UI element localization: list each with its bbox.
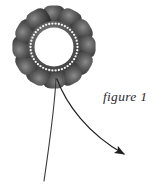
flower-bead xyxy=(30,40,32,42)
flower-bead xyxy=(64,25,66,27)
flower-bead xyxy=(42,25,44,27)
figure-illustration: figure 1 xyxy=(0,0,162,185)
flower-bead xyxy=(51,69,53,71)
flower-bead xyxy=(35,61,37,63)
flower-bead xyxy=(48,23,50,25)
flower-bead xyxy=(69,63,71,65)
flower-bead xyxy=(30,43,32,45)
flower-bead xyxy=(71,31,73,33)
flower-bead xyxy=(30,49,32,51)
flower-bead xyxy=(54,69,56,71)
flower-stem xyxy=(44,78,56,181)
flower-bead xyxy=(39,27,41,29)
flower-bead xyxy=(33,34,35,36)
flower-bead xyxy=(39,65,41,67)
flower-bead xyxy=(35,31,37,33)
flower-bead xyxy=(37,63,39,65)
flower-bead xyxy=(45,24,47,26)
flower-bead xyxy=(74,55,76,57)
flower-bead xyxy=(33,58,35,60)
flower-bead xyxy=(75,52,77,54)
flower-ring xyxy=(28,21,80,73)
flower-bead xyxy=(66,27,68,29)
flower-bead xyxy=(61,68,63,70)
flower-bead xyxy=(58,69,60,71)
flower-bead xyxy=(51,22,53,24)
flower-bead xyxy=(76,49,78,51)
flower-bead xyxy=(75,40,77,42)
flower-bead xyxy=(73,58,75,60)
flower-bead xyxy=(48,69,50,71)
flower-bead xyxy=(64,67,66,69)
flower-bead xyxy=(58,23,60,25)
flower-bead xyxy=(37,29,39,31)
flower-bead xyxy=(66,65,68,67)
flower-bead xyxy=(54,22,56,24)
flower-bead xyxy=(69,29,71,31)
flower-bead xyxy=(31,36,33,38)
flower-bead xyxy=(30,52,32,54)
flower-bead xyxy=(74,36,76,38)
flower-bead xyxy=(71,61,73,63)
flower-bead xyxy=(29,46,31,48)
flower-bead xyxy=(73,34,75,36)
flower-bead xyxy=(45,68,47,70)
flower-bead xyxy=(31,55,33,57)
flower-bead xyxy=(76,43,78,45)
figure-caption: figure 1 xyxy=(103,90,147,104)
flower-bead xyxy=(76,46,78,48)
flower-bead xyxy=(61,24,63,26)
flower-bead xyxy=(42,67,44,69)
